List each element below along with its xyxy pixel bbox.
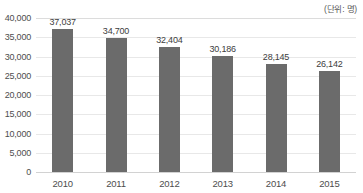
gridline xyxy=(36,114,356,115)
x-axis-tick-label-2010: 2010 xyxy=(52,178,72,189)
bar-2011[interactable]: 34,700 xyxy=(106,38,127,172)
gridline xyxy=(36,76,356,77)
bar-value-label: 32,404 xyxy=(156,35,182,45)
bar-value-label: 34,700 xyxy=(103,26,129,36)
bar-value-label: 37,037 xyxy=(49,17,75,27)
gridline xyxy=(36,134,356,135)
x-axis-tick-label-2014: 2014 xyxy=(266,178,286,189)
x-axis-tick-label-2012: 2012 xyxy=(159,178,179,189)
gridline xyxy=(36,95,356,96)
bar-2014[interactable]: 28,145 xyxy=(266,64,287,172)
unit-caption: (단위: 명) xyxy=(324,2,357,14)
x-axis-tick-label-2015: 2015 xyxy=(319,178,339,189)
gridline xyxy=(36,57,356,58)
y-axis-tick-label: 10,000 xyxy=(5,129,31,139)
y-axis-tick-label: 5,000 xyxy=(9,148,31,158)
y-axis-tick-label: 40,000 xyxy=(5,13,31,23)
y-axis-tick-label: 15,000 xyxy=(5,109,31,119)
bar-value-label: 28,145 xyxy=(263,52,289,62)
y-axis-tick-label: 25,000 xyxy=(5,71,31,81)
gridline xyxy=(36,37,356,38)
gridline xyxy=(36,172,356,173)
gridline xyxy=(36,153,356,154)
y-axis-tick-label: 30,000 xyxy=(5,52,31,62)
gridline xyxy=(36,18,356,19)
bar-value-label: 26,142 xyxy=(316,59,342,69)
bar-value-label: 30,186 xyxy=(209,44,235,54)
x-axis-tick-label-2011: 2011 xyxy=(106,178,126,189)
bar-2012[interactable]: 32,404 xyxy=(159,47,180,172)
bar-chart: (단위: 명) 40,00035,00030,00025,00020,00015… xyxy=(0,0,363,193)
x-axis-tick-label-2013: 2013 xyxy=(212,178,232,189)
bar-2015[interactable]: 26,142 xyxy=(319,71,340,172)
y-axis-tick-label: 0 xyxy=(26,167,31,177)
bar-2010[interactable]: 37,037 xyxy=(52,29,73,172)
y-axis-tick-label: 35,000 xyxy=(5,32,31,42)
plot-area: 40,00035,00030,00025,00020,00015,00010,0… xyxy=(36,18,356,172)
bar-2013[interactable]: 30,186 xyxy=(212,56,233,172)
y-axis-tick-label: 20,000 xyxy=(5,90,31,100)
